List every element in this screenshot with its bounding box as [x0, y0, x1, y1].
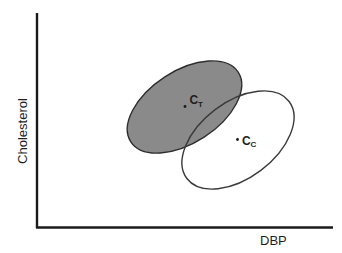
treated-centroid-subscript: T — [198, 100, 203, 109]
control-centroid-subscript: C — [251, 140, 257, 149]
control-centroid-dot — [236, 138, 239, 141]
treated-centroid-dot — [184, 105, 187, 108]
ellipse-diagram: C T C C Cholesterol DBP — [0, 0, 342, 253]
control-centroid: C C — [236, 134, 256, 149]
y-axis-title: Cholesterol — [15, 98, 30, 164]
x-axis-title: DBP — [260, 233, 287, 248]
